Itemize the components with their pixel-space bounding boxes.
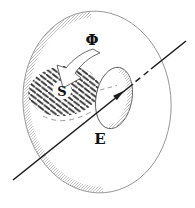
flux-label: Φ (85, 31, 98, 49)
field-label: E (94, 130, 105, 148)
induction-diagram-svg: Φ S E (0, 0, 195, 208)
induction-diagram: Φ S E (0, 0, 195, 208)
surface-label: S (57, 84, 66, 99)
